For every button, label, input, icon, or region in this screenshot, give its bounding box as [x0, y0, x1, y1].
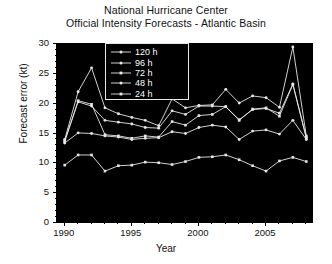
data-point — [211, 124, 214, 127]
data-point — [77, 90, 80, 93]
y-minor-tick — [55, 186, 57, 187]
legend-item-48-h[interactable]: 48 h — [110, 78, 184, 88]
data-point — [90, 103, 93, 106]
data-point — [104, 119, 107, 122]
data-point — [184, 132, 187, 135]
data-point — [184, 113, 187, 116]
data-point — [144, 119, 147, 122]
y-tick-label-25: 25 — [38, 68, 49, 78]
data-point — [184, 106, 187, 109]
data-point — [117, 164, 120, 167]
y-minor-tick — [55, 168, 57, 169]
y-minor-tick — [55, 210, 57, 211]
data-point — [238, 102, 241, 105]
data-point — [90, 154, 93, 157]
y-tick-0 — [53, 222, 57, 223]
y-minor-tick — [55, 121, 57, 122]
legend-item-96-h[interactable]: 96 h — [110, 57, 184, 67]
chart-figure: National Hurricane Center Official Inten… — [0, 0, 332, 264]
data-point — [184, 124, 187, 127]
data-point — [130, 123, 133, 126]
data-point — [104, 170, 107, 173]
data-point — [77, 99, 80, 102]
y-tick-label-5: 5 — [44, 187, 49, 197]
data-point — [197, 126, 200, 129]
data-point — [292, 156, 295, 159]
series-line — [65, 120, 307, 143]
x-tick-1999 — [185, 222, 186, 224]
y-minor-tick — [55, 198, 57, 199]
data-point — [224, 154, 227, 157]
x-tick-2000 — [198, 222, 199, 226]
data-point — [251, 164, 254, 167]
data-point — [104, 106, 107, 109]
data-point — [278, 133, 281, 136]
data-point — [251, 108, 254, 111]
data-point — [63, 164, 66, 167]
data-point — [171, 163, 174, 166]
data-point — [130, 138, 133, 141]
x-tick-2001 — [211, 222, 212, 224]
y-tick-label-0: 0 — [44, 217, 49, 227]
data-point — [90, 66, 93, 69]
legend-item-120-h[interactable]: 120 h — [110, 47, 184, 57]
data-point — [144, 137, 147, 140]
x-tick-2002 — [225, 222, 226, 224]
legend-label: 48 h — [132, 78, 153, 88]
y-minor-tick — [55, 138, 57, 139]
data-point — [211, 113, 214, 116]
data-point — [265, 170, 268, 173]
x-tick-1993 — [104, 222, 105, 224]
data-point — [197, 105, 200, 108]
x-tick-1998 — [171, 222, 172, 224]
x-tick-1996 — [144, 222, 145, 224]
y-minor-tick — [55, 127, 57, 128]
x-tick-2003 — [238, 222, 239, 224]
y-tick-label-20: 20 — [38, 98, 49, 108]
data-point — [224, 125, 227, 128]
x-tick-1997 — [158, 222, 159, 224]
data-point — [171, 120, 174, 123]
y-minor-tick — [55, 204, 57, 205]
y-tick-20 — [53, 103, 57, 104]
data-point — [90, 132, 93, 135]
y-minor-tick — [55, 156, 57, 157]
y-minor-tick — [55, 67, 57, 68]
data-point — [305, 160, 308, 163]
x-tick-1995 — [131, 222, 132, 226]
y-tick-label-15: 15 — [38, 128, 49, 138]
x-axis-label: Year — [0, 243, 332, 254]
data-point — [278, 115, 281, 118]
y-minor-tick — [55, 61, 57, 62]
data-point — [265, 96, 268, 99]
data-point — [278, 106, 281, 109]
data-point — [157, 136, 160, 139]
data-point — [198, 114, 201, 117]
y-minor-tick — [55, 144, 57, 145]
data-point — [104, 134, 107, 137]
y-tick-5 — [53, 192, 57, 193]
y-minor-tick — [55, 97, 57, 98]
data-point — [117, 112, 120, 115]
data-point — [291, 46, 294, 49]
data-point — [157, 161, 160, 164]
y-tick-10 — [53, 162, 57, 163]
y-tick-30 — [53, 43, 57, 44]
legend-item-72-h[interactable]: 72 h — [110, 68, 184, 78]
data-point — [278, 160, 281, 163]
y-minor-tick — [55, 174, 57, 175]
legend-item-24-h[interactable]: 24 h — [110, 89, 184, 99]
data-point — [171, 130, 174, 133]
legend-marker-icon — [110, 58, 132, 68]
y-minor-tick — [55, 109, 57, 110]
legend-label: 120 h — [132, 47, 158, 57]
y-tick-label-30: 30 — [38, 38, 49, 48]
legend-marker-icon — [110, 47, 132, 57]
data-point — [157, 127, 160, 130]
y-minor-tick — [55, 79, 57, 80]
legend-marker-icon — [110, 68, 132, 78]
x-tick-label-1995: 1995 — [120, 228, 141, 238]
y-tick-15 — [53, 133, 57, 134]
series-line — [65, 155, 307, 171]
data-point — [291, 119, 294, 122]
